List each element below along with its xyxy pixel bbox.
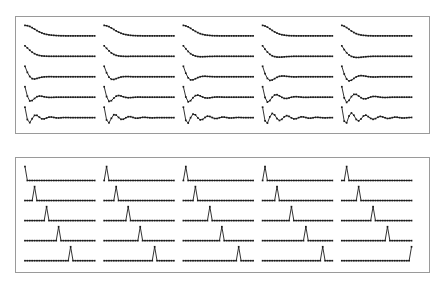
trace-marker <box>408 260 410 262</box>
trace-marker <box>27 240 29 242</box>
trace-marker <box>396 180 398 182</box>
trace-marker <box>197 260 199 262</box>
trace-marker <box>77 240 79 242</box>
trace-marker <box>130 180 132 182</box>
trace-marker <box>77 76 79 78</box>
trace-marker <box>391 55 393 57</box>
trace-marker <box>137 76 139 78</box>
trace-marker <box>207 115 209 117</box>
trace-marker <box>283 180 285 182</box>
trace-marker <box>401 76 403 78</box>
trace-marker <box>411 180 413 182</box>
trace-marker <box>394 200 396 202</box>
trace-marker <box>226 220 228 222</box>
trace-line <box>263 107 333 123</box>
trace-marker <box>168 260 170 262</box>
trace-marker <box>27 47 29 49</box>
trace-marker <box>353 78 355 80</box>
trace-marker <box>185 120 187 122</box>
trace-marker <box>190 200 192 202</box>
trace-marker <box>264 200 266 202</box>
trace-marker <box>187 260 189 262</box>
trace-marker <box>199 95 201 97</box>
trace-marker <box>264 166 266 168</box>
trace-marker <box>197 56 199 58</box>
trace-marker <box>377 35 379 37</box>
trace-marker <box>240 260 242 262</box>
trace-marker <box>327 35 329 37</box>
trace-marker <box>276 186 278 188</box>
trace-marker <box>240 76 242 78</box>
trace-marker <box>331 117 333 119</box>
trace-marker <box>161 220 163 222</box>
trace-marker <box>190 53 192 55</box>
trace-marker <box>367 56 369 58</box>
trace-marker <box>343 200 345 202</box>
trace-marker <box>130 35 132 37</box>
trace-marker <box>300 200 302 202</box>
trace-marker <box>171 240 173 242</box>
trace-marker <box>214 240 216 242</box>
top-cell-r1-c1 <box>103 45 174 57</box>
trace-marker <box>137 200 139 202</box>
trace-marker <box>312 76 314 78</box>
trace-marker <box>31 118 33 120</box>
trace-marker <box>132 117 134 119</box>
trace-marker <box>322 240 324 242</box>
trace-marker <box>291 35 293 37</box>
trace-marker <box>291 200 293 202</box>
trace-marker <box>312 96 314 98</box>
bottom-cell-r1-c3 <box>262 186 333 202</box>
trace-marker <box>382 200 384 202</box>
trace-marker <box>29 100 31 102</box>
trace-marker <box>310 240 312 242</box>
trace-marker <box>358 186 360 188</box>
trace-marker <box>106 240 108 242</box>
trace-marker <box>171 260 173 262</box>
trace-marker <box>173 240 175 242</box>
trace-marker <box>207 260 209 262</box>
trace-marker <box>223 76 225 78</box>
trace-marker <box>48 260 50 262</box>
trace-marker <box>195 260 197 262</box>
trace-marker <box>343 97 345 99</box>
trace-marker <box>190 220 192 222</box>
trace-marker <box>319 200 321 202</box>
trace-marker <box>348 240 350 242</box>
trace-marker <box>269 200 271 202</box>
trace-marker <box>360 200 362 202</box>
trace-marker <box>238 220 240 222</box>
trace-marker <box>324 180 326 182</box>
trace-marker <box>72 35 74 37</box>
trace-marker <box>163 117 165 119</box>
trace-marker <box>139 180 141 182</box>
trace-marker <box>387 118 389 120</box>
trace-marker <box>363 200 365 202</box>
trace-marker <box>123 96 125 98</box>
trace-marker <box>262 180 264 182</box>
trace-marker <box>108 101 110 103</box>
top-cell-r4-c4 <box>341 106 412 123</box>
trace-marker <box>55 220 57 222</box>
trace-marker <box>147 76 149 78</box>
trace-marker <box>286 240 288 242</box>
trace-marker <box>288 35 290 37</box>
trace-marker <box>372 119 374 121</box>
trace-marker <box>36 115 38 117</box>
trace-marker <box>219 260 221 262</box>
trace-marker <box>367 116 369 118</box>
trace-marker <box>303 220 305 222</box>
trace-marker <box>348 200 350 202</box>
trace-marker <box>48 55 50 57</box>
trace-marker <box>377 55 379 57</box>
trace-marker <box>384 200 386 202</box>
trace-marker <box>166 96 168 98</box>
trace-marker <box>303 116 305 118</box>
trace-marker <box>34 28 36 30</box>
trace-marker <box>63 55 65 57</box>
trace-marker <box>341 45 343 47</box>
trace-marker <box>149 35 151 37</box>
trace-marker <box>147 220 149 222</box>
trace-marker <box>195 31 197 33</box>
trace-marker <box>219 35 221 37</box>
